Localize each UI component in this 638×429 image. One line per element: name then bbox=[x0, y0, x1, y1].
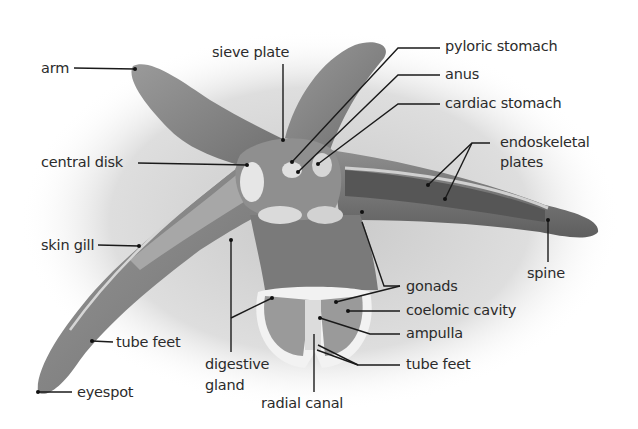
arm-lower bbox=[250, 215, 378, 290]
label-digestive-gland-line2: gland bbox=[205, 377, 245, 394]
label-coelomic-cavity: coelomic cavity bbox=[406, 302, 516, 319]
label-tube-feet-right: tube feet bbox=[406, 356, 470, 373]
label-tube-feet-left: tube feet bbox=[116, 334, 180, 351]
label-cardiac-stomach: cardiac stomach bbox=[445, 95, 562, 112]
label-central-disk: central disk bbox=[41, 154, 123, 171]
label-radial-canal: radial canal bbox=[261, 395, 343, 412]
label-pyloric-stomach: pyloric stomach bbox=[445, 38, 558, 55]
label-endoskeletal-plates-line2: plates bbox=[500, 154, 543, 171]
label-anus: anus bbox=[445, 66, 479, 83]
label-sieve-plate: sieve plate bbox=[212, 44, 289, 61]
label-eyespot: eyespot bbox=[77, 384, 133, 401]
label-skin-gill: skin gill bbox=[41, 237, 94, 254]
label-digestive-gland-line1: digestive bbox=[205, 356, 269, 373]
label-spine: spine bbox=[527, 265, 565, 282]
starfish-anatomy-diagram: arm sieve plate pyloric stomach anus car… bbox=[0, 0, 638, 429]
label-ampulla: ampulla bbox=[406, 325, 463, 342]
label-arm: arm bbox=[41, 60, 69, 77]
label-gonads: gonads bbox=[406, 278, 458, 295]
label-endoskeletal-plates-line1: endoskeletal bbox=[500, 134, 590, 151]
starfish-illustration bbox=[0, 0, 638, 429]
